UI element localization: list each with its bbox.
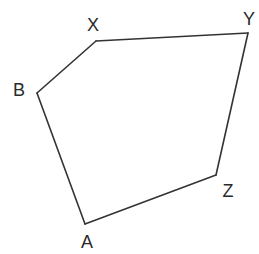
edge-xy [96,33,248,41]
vertex-label-y: Y [243,9,255,29]
vertex-label-b: B [13,80,25,100]
edge-za [85,175,216,224]
edge-yz [216,33,248,175]
vertex-labels: A B X Y Z [13,9,255,252]
edge-ab [37,93,85,224]
edge-bx [37,41,96,93]
polygon-edges [37,33,248,224]
vertex-label-a: A [81,232,93,252]
pentagon-diagram: A B X Y Z [0,0,259,254]
vertex-label-z: Z [223,181,234,201]
vertex-label-x: X [87,15,99,35]
